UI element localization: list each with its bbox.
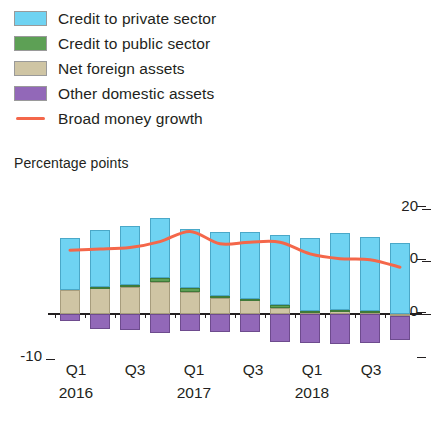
legend-swatch-credit-public-icon <box>14 36 47 51</box>
legend-item: Other domestic assets <box>14 81 414 106</box>
y-axis-title: Percentage points <box>14 155 129 171</box>
legend-item: Broad money growth <box>14 106 414 131</box>
x-tick-label-q: Q3 <box>233 362 273 378</box>
legend-item-label: Net foreign assets <box>58 61 185 77</box>
y-tick-minus10: -10 <box>3 348 55 363</box>
legend-item: Credit to public sector <box>14 31 414 56</box>
legend-swatch-credit-private-icon <box>14 11 47 26</box>
legend-line-broad-money-growth-icon <box>14 111 47 126</box>
x-tick-label-q: Q1 <box>56 362 96 378</box>
x-tick-label-q: Q1 <box>292 362 332 378</box>
legend-item-label: Broad money growth <box>58 111 203 127</box>
x-tick-label-year: 2018 <box>287 385 337 401</box>
broad-money-growth-line <box>0 180 431 330</box>
legend-item-label: Credit to private sector <box>58 11 216 27</box>
x-tick-label-year: 2016 <box>51 385 101 401</box>
x-tick-label-q: Q3 <box>351 362 391 378</box>
legend-swatch-other-domestic-assets-icon <box>14 86 47 101</box>
line-path <box>70 231 400 267</box>
chart-plot-area: 20 10 0 <box>0 180 431 330</box>
x-tick-label-q: Q3 <box>115 362 155 378</box>
legend-item-label: Other domestic assets <box>58 86 214 102</box>
x-tick-label-year: 2017 <box>169 385 219 401</box>
y-tick-right-minus10 <box>417 357 426 358</box>
legend-swatch-net-foreign-assets-icon <box>14 61 47 76</box>
legend-item-label: Credit to public sector <box>58 36 210 52</box>
x-axis-labels: Q1 Q3 Q1 Q3 Q1 Q3 2016 2017 2018 <box>0 362 431 422</box>
chart-legend: Credit to private sector Credit to publi… <box>14 6 414 131</box>
x-tick-label-q: Q1 <box>174 362 214 378</box>
legend-item: Net foreign assets <box>14 56 414 81</box>
legend-item: Credit to private sector <box>14 6 414 31</box>
y-tick-label: -10 <box>20 347 42 364</box>
